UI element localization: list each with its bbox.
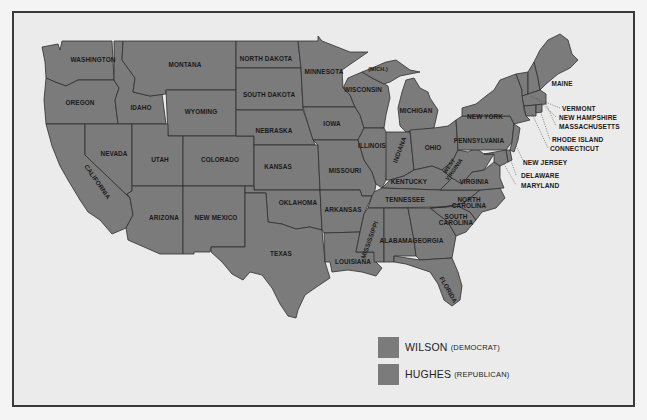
state-pennsylvania xyxy=(456,116,514,150)
state-south-dakota xyxy=(236,68,303,110)
label-ohio: OHIO xyxy=(425,145,442,151)
label-pennsylvania: PENNSYLVANIA xyxy=(454,138,504,144)
legend-name: HUGHES xyxy=(405,368,451,380)
label-montana: MONTANA xyxy=(169,62,202,68)
state-michigan xyxy=(398,78,438,132)
label-kansas: KANSAS xyxy=(264,164,292,170)
label-oregon: OREGON xyxy=(65,100,94,106)
label-kentucky: KENTUCKY xyxy=(391,179,427,185)
label-maine: MAINE xyxy=(551,81,572,87)
label-texas: TEXAS xyxy=(270,251,292,257)
label-missouri: MISSOURI xyxy=(329,168,361,174)
label-iowa: IOWA xyxy=(323,121,340,127)
label-michigan-up: (MICH.) xyxy=(368,67,388,72)
label-vermont: VERMONT xyxy=(562,106,596,113)
legend-party: (DEMOCRAT) xyxy=(451,343,500,352)
label-south-dakota: SOUTH DAKOTA xyxy=(243,92,295,98)
label-north-dakota: NORTH DAKOTA xyxy=(240,56,293,62)
label-illinois: ILLINOIS xyxy=(358,143,386,149)
label-nebraska: NEBRASKA xyxy=(255,128,292,134)
label-virginia: VIRGINIA xyxy=(459,179,488,185)
label-connecticut: CONNECTICUT xyxy=(550,146,599,153)
legend: WILSON (DEMOCRAT) HUGHES (REPUBLICAN) xyxy=(378,336,509,390)
label-utah: UTAH xyxy=(151,157,169,163)
label-arkansas: ARKANSAS xyxy=(324,207,361,213)
label-louisiana: LOUISIANA xyxy=(335,259,371,265)
label-maryland: MARYLAND xyxy=(521,183,559,190)
label-massachusetts: MASSACHUSETTS xyxy=(559,124,620,131)
legend-name: WILSON xyxy=(405,341,448,353)
label-oklahoma: OKLAHOMA xyxy=(279,200,317,206)
state-montana xyxy=(122,41,236,96)
label-arizona: ARIZONA xyxy=(149,215,179,221)
label-minnesota: MINNESOTA xyxy=(305,69,344,75)
label-idaho: IDAHO xyxy=(130,105,151,111)
legend-party: (REPUBLICAN) xyxy=(454,370,509,379)
label-nevada: NEVADA xyxy=(100,151,127,157)
label-colorado: COLORADO xyxy=(201,157,239,163)
label-new-jersey: NEW JERSEY xyxy=(523,160,567,167)
label-wyoming: WYOMING xyxy=(185,109,218,115)
label-new-york: NEW YORK xyxy=(467,114,503,120)
legend-swatch-wilson xyxy=(378,337,399,358)
label-rhode-island: RHODE ISLAND xyxy=(552,137,603,144)
state-connecticut xyxy=(524,105,536,116)
label-georgia: GEORGIA xyxy=(413,238,444,244)
label-new-mexico: NEW MEXICO xyxy=(195,215,238,221)
label-south-carolina: SOUTH CAROLINA xyxy=(439,214,474,227)
label-washington: WASHINGTON xyxy=(71,57,116,63)
label-north-carolina: NORTH CAROLINA xyxy=(452,197,487,210)
label-michigan: MICHIGAN xyxy=(399,108,432,114)
label-tennessee: TENNESSEE xyxy=(385,197,425,203)
legend-swatch-hughes xyxy=(378,364,399,385)
label-delaware: DELAWARE xyxy=(521,173,559,180)
legend-item-wilson: WILSON (DEMOCRAT) xyxy=(378,336,509,358)
state-washington xyxy=(42,41,114,86)
legend-item-hughes: HUGHES (REPUBLICAN) xyxy=(378,363,509,385)
state-rhode-island xyxy=(536,104,542,113)
label-wisconsin: WISCONSIN xyxy=(344,87,382,93)
label-alabama: ALABAMA xyxy=(379,238,412,244)
label-new-hampshire: NEW HAMPSHIRE xyxy=(559,115,617,122)
